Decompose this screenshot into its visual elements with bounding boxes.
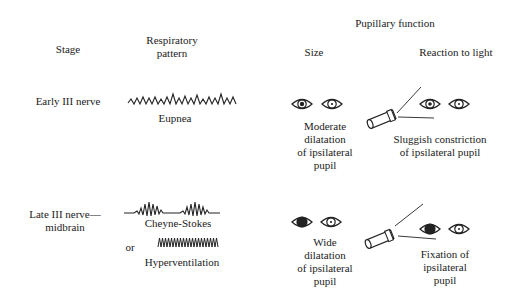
cheyne-stokes-waveform (124, 202, 220, 216)
eye-icon (449, 100, 469, 109)
eye-icon (420, 223, 440, 234)
eye-icon (449, 225, 469, 234)
eye-icon (322, 100, 342, 109)
eupnea-waveform (128, 94, 236, 104)
eye-icon (292, 100, 312, 109)
eye-icon (321, 218, 341, 227)
diagram-graphics (0, 0, 509, 296)
eye-icon (292, 216, 312, 227)
hyperventilation-waveform (158, 238, 218, 247)
flashlight-icon (366, 87, 434, 130)
eye-icon (420, 100, 440, 109)
